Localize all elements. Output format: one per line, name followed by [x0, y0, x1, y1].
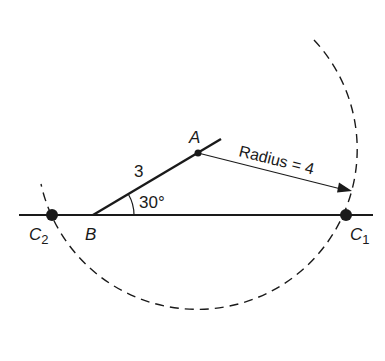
angle-arc [129, 195, 135, 216]
arrowhead-icon [337, 183, 352, 193]
label-b: B [85, 225, 96, 244]
point-c2-dot [46, 209, 58, 221]
label-angle: 30° [139, 193, 165, 212]
label-c1: C1 [350, 225, 370, 247]
label-length-ab: 3 [134, 162, 143, 181]
construction-diagram: A B C1 C2 3 30° Radius = 4 [0, 0, 385, 361]
label-c2: C2 [29, 225, 49, 247]
point-a-dot [195, 150, 202, 157]
label-a: A [188, 128, 200, 147]
point-c1-dot [340, 209, 352, 221]
